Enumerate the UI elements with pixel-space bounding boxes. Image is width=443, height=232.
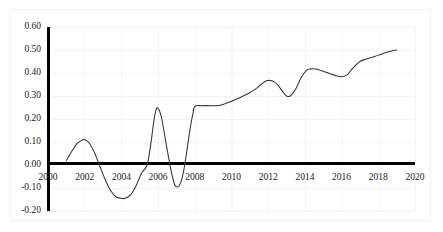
x-tick-label: 2006 (141, 173, 175, 183)
y-tick-label: -0.20 (7, 206, 41, 216)
y-tick-label: 0.50 (7, 45, 41, 55)
x-tick-label: 2018 (361, 173, 395, 183)
x-tick-label: 2008 (178, 173, 212, 183)
x-tick-label: 2004 (104, 173, 138, 183)
y-tick-label: 0.30 (7, 91, 41, 101)
x-tick-label: 2016 (325, 173, 359, 183)
chart-plot-area (0, 0, 443, 232)
y-tick-label: 0.20 (7, 114, 41, 124)
x-tick-label: 2002 (68, 173, 102, 183)
y-tick-label: 0.40 (7, 68, 41, 78)
x-tick-label: 2000 (31, 173, 65, 183)
x-tick-label: 2014 (288, 173, 322, 183)
chart-container: -0.20-0.100.000.100.200.300.400.500.60 2… (0, 0, 443, 232)
y-tick-label: 0.60 (7, 22, 41, 32)
x-tick-label: 2020 (398, 173, 432, 183)
y-tick-label: 0.00 (7, 160, 41, 170)
y-tick-label: 0.10 (7, 137, 41, 147)
y-tick-label: -0.10 (7, 183, 41, 193)
x-tick-label: 2010 (215, 173, 249, 183)
x-tick-label: 2012 (251, 173, 285, 183)
